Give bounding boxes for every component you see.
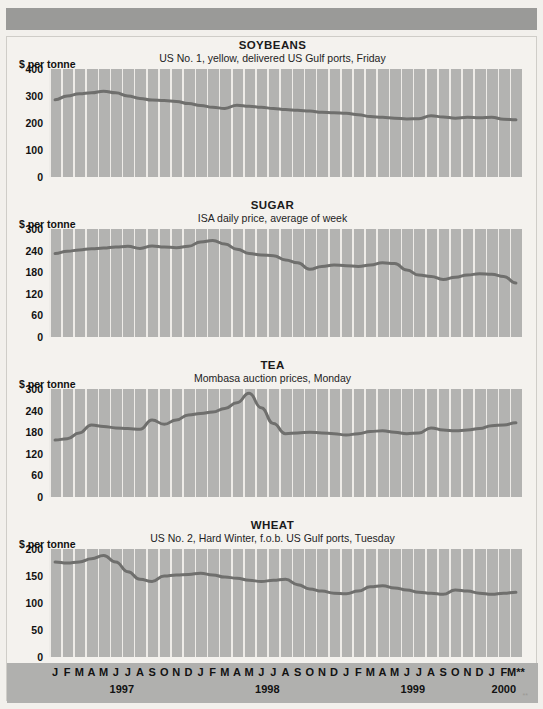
grid-line: [304, 549, 306, 657]
x-axis-month-label: O: [451, 666, 460, 678]
grid-line: [352, 389, 354, 497]
plot-area: [49, 69, 522, 177]
y-axis-tick-label: 300: [9, 383, 43, 395]
grid-line: [352, 69, 354, 177]
grid-line: [437, 389, 439, 497]
grid-line: [255, 549, 257, 657]
grid-line: [61, 389, 63, 497]
grid-line: [146, 389, 148, 497]
chart-subtitle: ISA daily price, average of week: [7, 212, 538, 224]
grid-line: [243, 389, 245, 497]
y-axis-tick-label: 400: [9, 63, 43, 75]
x-axis-month-label: J: [125, 666, 131, 678]
x-axis-month-label: J: [270, 666, 276, 678]
x-axis-month-label: M: [220, 666, 229, 678]
grid-line: [122, 389, 124, 497]
x-axis-month-label: M: [245, 666, 254, 678]
x-axis-month-label: A: [233, 666, 241, 678]
x-axis-month-label: J: [489, 666, 495, 678]
grid-line: [449, 549, 451, 657]
grid-line: [401, 549, 403, 657]
grid-line: [122, 549, 124, 657]
grid-line: [413, 229, 415, 337]
grid-line: [134, 229, 136, 337]
grid-line: [267, 549, 269, 657]
grid-line: [195, 549, 197, 657]
plot-area: [49, 389, 522, 497]
x-axis-month-label: A: [282, 666, 290, 678]
grid-line: [510, 549, 512, 657]
y-axis-tick-label: 120: [9, 448, 43, 460]
grid-line: [98, 549, 100, 657]
grid-line: [158, 549, 160, 657]
grid-line: [207, 229, 209, 337]
grid-line: [340, 69, 342, 177]
grid-line: [243, 549, 245, 657]
grid-line: [122, 69, 124, 177]
x-axis-year-label: 2000: [492, 683, 516, 695]
grid-line: [231, 69, 233, 177]
x-axis-month-label: O: [160, 666, 169, 678]
x-axis-month-label: A: [427, 666, 435, 678]
grid-line: [98, 229, 100, 337]
grid-line: [73, 69, 75, 177]
grid-line: [61, 229, 63, 337]
grid-line: [413, 549, 415, 657]
grid-line: [292, 549, 294, 657]
y-axis-tick-label: 0: [9, 171, 43, 183]
grid-line: [146, 549, 148, 657]
grid-line: [170, 549, 172, 657]
grid-line: [340, 549, 342, 657]
grid-line: [498, 69, 500, 177]
grid-line: [182, 229, 184, 337]
grid-line: [376, 389, 378, 497]
grid-line: [449, 229, 451, 337]
x-axis-month-label: M**: [507, 666, 525, 678]
x-axis-month-label: J: [343, 666, 349, 678]
grid-line: [304, 229, 306, 337]
grid-line: [279, 69, 281, 177]
grid-line: [195, 229, 197, 337]
x-axis-month-label: J: [416, 666, 422, 678]
grid-line: [328, 389, 330, 497]
chart-title: SUGAR: [7, 199, 538, 211]
grid-line: [61, 69, 63, 177]
y-axis-tick-label: 0: [9, 651, 43, 663]
grid-line: [498, 229, 500, 337]
x-axis-month-labels: JFMAMJJASONDJFMAMJJASONDJFMAMJJASONDJFM*…: [7, 666, 538, 684]
grid-line: [170, 389, 172, 497]
grid-line: [376, 229, 378, 337]
grid-line: [73, 549, 75, 657]
grid-line: [158, 389, 160, 497]
x-axis-month-label: N: [463, 666, 471, 678]
x-axis-month-label: A: [379, 666, 387, 678]
grid-line: [389, 389, 391, 497]
grid-line: [364, 69, 366, 177]
x-axis-month-label: J: [113, 666, 119, 678]
grid-line: [292, 69, 294, 177]
grid-line: [49, 549, 51, 657]
y-axis-tick-label: 100: [9, 144, 43, 156]
y-axis-tick-label: 300: [9, 90, 43, 102]
x-axis-month-label: S: [148, 666, 155, 678]
grid-line: [49, 229, 51, 337]
grid-line: [401, 389, 403, 497]
grid-line: [170, 229, 172, 337]
chart-title: TEA: [7, 359, 538, 371]
grid-line: [134, 69, 136, 177]
grid-line: [110, 229, 112, 337]
chart-subtitle: US No. 1, yellow, delivered US Gulf port…: [7, 52, 538, 64]
grid-line: [195, 69, 197, 177]
grid-line: [328, 229, 330, 337]
grid-line: [255, 229, 257, 337]
footnote-marker: **: [523, 692, 528, 699]
grid-line: [243, 229, 245, 337]
grid-line: [352, 229, 354, 337]
grid-line: [473, 69, 475, 177]
x-axis-month-label: D: [476, 666, 484, 678]
grid-line: [498, 389, 500, 497]
grid-line: [340, 389, 342, 497]
x-axis-month-label: D: [330, 666, 338, 678]
grid-line: [461, 549, 463, 657]
grid-line: [85, 229, 87, 337]
